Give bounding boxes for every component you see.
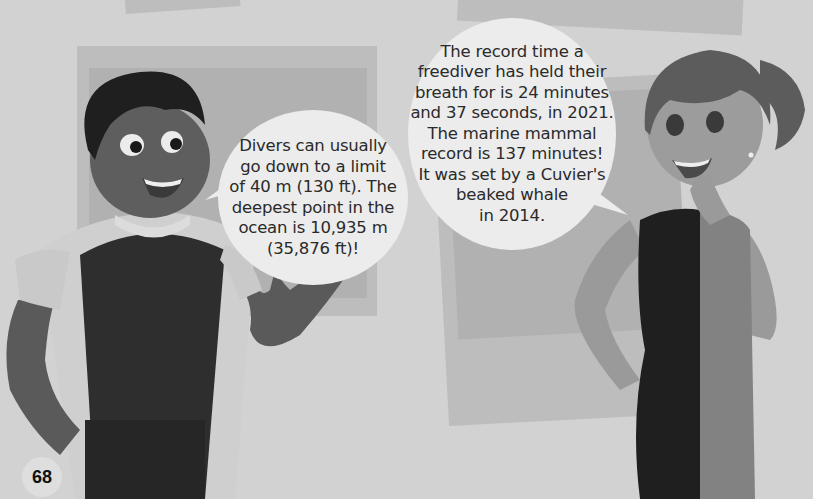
- bubble-line: record is 137 minutes!: [421, 144, 603, 163]
- bubble-line: deepest point in the: [232, 198, 394, 217]
- bubble-line: freediver has held their: [418, 62, 607, 81]
- book-page: Divers can usually go down to a limit of…: [0, 0, 813, 499]
- bubble-line: ocean is 10,935 m: [238, 218, 387, 237]
- bubble-line: go down to a limit: [240, 157, 385, 176]
- bubble-line: beaked whale: [456, 185, 568, 204]
- speech-bubble-girl-text: The record time a freediver has held the…: [410, 42, 613, 227]
- bubble-line: of 40 m (130 ft). The: [229, 177, 396, 196]
- speech-bubble-girl: The record time a freediver has held the…: [408, 18, 616, 250]
- bubble-line: in 2014.: [479, 206, 545, 225]
- speech-bubble-boy-text: Divers can usually go down to a limit of…: [229, 136, 396, 259]
- bubble-line: (35,876 ft)!: [267, 239, 359, 258]
- bubble-line: The marine mammal: [428, 124, 597, 143]
- bubble-line: and 37 seconds, in 2021.: [410, 103, 613, 122]
- bubble-line: The record time a: [440, 42, 583, 61]
- page-number: 68: [22, 457, 62, 497]
- bubble-line: breath for is 24 minutes: [415, 83, 609, 102]
- bubble-line: It was set by a Cuvier's: [419, 165, 606, 184]
- bubble-line: Divers can usually: [239, 136, 387, 155]
- speech-bubble-boy: Divers can usually go down to a limit of…: [218, 110, 408, 285]
